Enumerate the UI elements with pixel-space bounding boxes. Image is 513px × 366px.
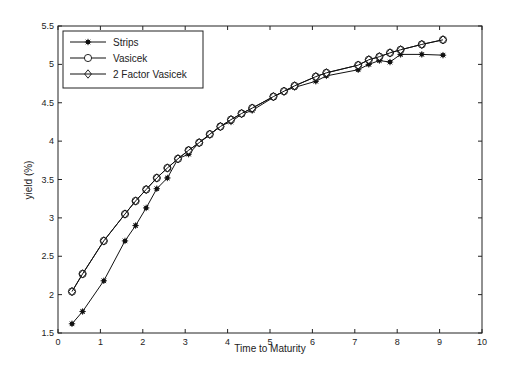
x-tick-label: 10	[477, 337, 487, 347]
x-tick-label: 6	[310, 337, 315, 347]
x-tick-label: 4	[225, 337, 230, 347]
legend-label: Vasicek	[113, 53, 148, 64]
legend-label: 2 Factor Vasicek	[113, 69, 188, 80]
y-axis-label: yield (%)	[23, 161, 34, 200]
y-tick-label: 5.5	[41, 21, 54, 31]
x-tick-label: 9	[437, 337, 442, 347]
x-tick-label: 8	[395, 337, 400, 347]
x-tick-label: 2	[140, 337, 145, 347]
y-tick-label: 3.5	[41, 175, 54, 185]
y-tick-label: 3	[49, 213, 54, 223]
y-tick-label: 5	[49, 59, 54, 69]
legend-item: 2 Factor Vasicek	[70, 69, 188, 80]
y-tick-label: 2	[49, 290, 54, 300]
legend-label: Strips	[113, 37, 139, 48]
y-tick-label: 2.5	[41, 251, 54, 261]
y-tick-label: 1.5	[41, 328, 54, 338]
y-tick-label: 4.5	[41, 98, 54, 108]
y-tick-label: 4	[49, 136, 54, 146]
legend: StripsVasicek2 Factor Vasicek	[63, 31, 203, 88]
x-tick-label: 1	[98, 337, 103, 347]
x-tick-label: 0	[55, 337, 60, 347]
yield-curve-chart: 0123456789101.522.533.544.555.5 StripsVa…	[0, 0, 513, 366]
x-tick-label: 3	[183, 337, 188, 347]
x-tick-label: 7	[352, 337, 357, 347]
x-axis-label: Time to Maturity	[234, 343, 305, 354]
